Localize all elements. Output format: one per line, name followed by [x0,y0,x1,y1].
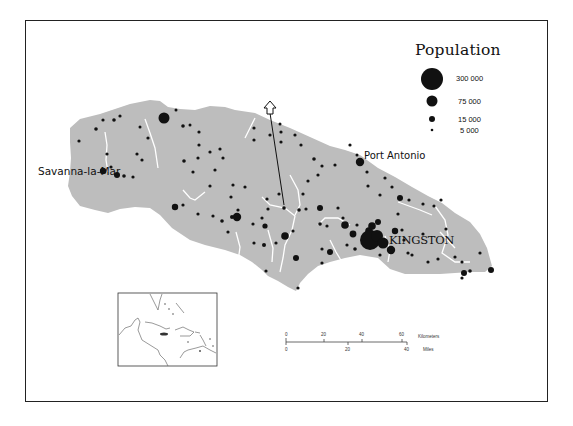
legend-symbols [421,68,443,131]
label-kingston: KINGSTON [389,233,454,247]
legend-title: Population [415,41,501,59]
legend-label-300000: 300 000 [456,74,483,83]
label-savanna-la-mar: Savanna-la-Mar [38,165,120,177]
mile-unit: Miles [423,347,434,352]
legend-label-75000: 75 000 [458,97,481,106]
mile-tick-40: 40 [404,347,409,352]
km-tick-40: 40 [359,332,364,337]
km-tick-20: 20 [321,332,326,337]
scale-bar [286,338,407,345]
mile-tick-20: 20 [345,347,350,352]
label-port-antonio: Port Antonio [364,150,425,161]
inset-locator-map [118,293,217,366]
legend-label-5000: 5 000 [460,126,479,135]
km-unit: Kilometers [418,334,439,339]
legend-label-15000: 15 000 [458,115,481,124]
km-tick-60: 60 [399,332,404,337]
jamaica-map [0,0,573,426]
km-tick-0: 0 [285,332,288,337]
mile-tick-0: 0 [285,347,288,352]
